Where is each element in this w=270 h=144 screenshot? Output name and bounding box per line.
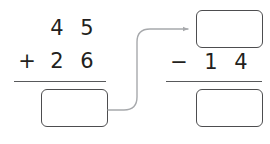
addition-operator: +	[18, 51, 36, 72]
left-bottom-operand-ones-digit: 6	[78, 51, 96, 72]
right-minuend-box[interactable]	[196, 10, 263, 48]
left-answer-box[interactable]	[41, 89, 108, 127]
left-problem-rule	[14, 81, 106, 82]
left-bottom-operand-tens-digit: 2	[48, 51, 66, 72]
right-answer-box[interactable]	[196, 89, 263, 127]
right-subtrahend-ones-digit: 4	[232, 52, 250, 73]
left-top-operand-ones-digit: 5	[78, 18, 96, 39]
subtraction-operator: −	[170, 52, 188, 73]
math-worksheet: 4 5 + 2 6 − 1 4	[0, 0, 270, 144]
right-subtrahend-tens-digit: 1	[202, 52, 220, 73]
right-problem-rule	[166, 81, 262, 82]
left-top-operand-tens-digit: 4	[48, 18, 66, 39]
